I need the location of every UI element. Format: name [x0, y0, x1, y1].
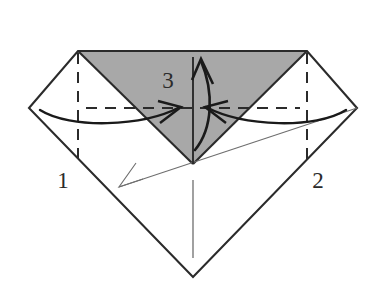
origami-diagram: 1 2 3 [0, 0, 387, 287]
step-number-1: 1 [57, 168, 69, 193]
step-number-2: 2 [312, 168, 324, 193]
origami-figure-canvas: 1 2 3 [0, 0, 387, 287]
step-number-3: 3 [162, 68, 174, 93]
